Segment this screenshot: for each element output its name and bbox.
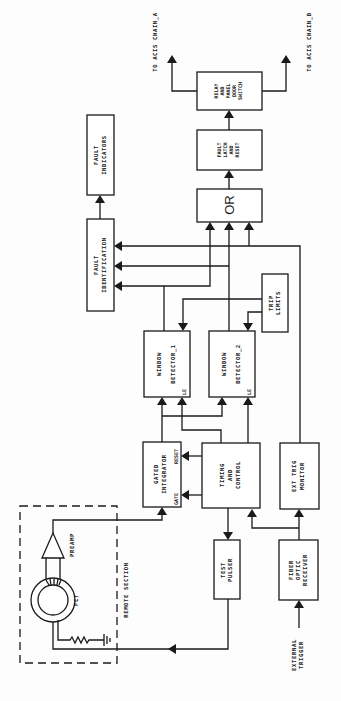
remote-section-label: REMOTE SECTION <box>123 562 129 618</box>
block-fault-indicators: FAULT INDICATORS <box>87 115 114 195</box>
block-diagram: FAULT INDICATORS FAULT IDENTIFICATION OR… <box>0 0 341 701</box>
port-reset: RESET <box>173 449 179 464</box>
svg-text:RECEIVER: RECEIVER <box>302 554 308 586</box>
block-fault-identification: FAULT IDENTIFICATION <box>87 219 114 311</box>
block-gated-integrator: GATED INTEGRATOR GATE RESET <box>143 442 181 507</box>
remote-section: REMOTE SECTION PREAMP FCT <box>20 506 129 663</box>
fct-label: FCT <box>73 594 79 606</box>
svg-text:DETECTOR_1: DETECTOR_1 <box>170 344 177 384</box>
port-le: LE <box>181 389 187 395</box>
label: OR <box>222 195 237 215</box>
svg-text:LIMITS: LIMITS <box>275 291 281 315</box>
preamp-icon <box>42 533 64 558</box>
svg-text:TRIP: TRIP <box>268 295 274 311</box>
svg-text:TEST: TEST <box>220 562 226 578</box>
svg-text:TRIGGER: TRIGGER <box>298 641 304 669</box>
ground-icon <box>104 634 110 646</box>
svg-text:INTEGRATOR: INTEGRATOR <box>161 454 167 494</box>
svg-text:PULSER: PULSER <box>227 558 233 582</box>
preamp-label: PREAMP <box>69 533 75 557</box>
svg-text:EXT TRIG: EXT TRIG <box>291 460 297 492</box>
block-trip-limits: TRIP LIMITS <box>262 274 288 332</box>
block-test-pulser: TEST PULSER <box>214 540 240 599</box>
block-or-gate: OR <box>197 189 262 222</box>
port-le: LE <box>246 389 252 395</box>
block-window-detector-2: WINDOW DETECTOR_2 LE <box>209 331 255 397</box>
port-gate: GATE <box>173 493 179 505</box>
block-timing-control: TIMING AND CONTROL <box>202 443 260 508</box>
label: INDICATORS <box>101 135 107 175</box>
svg-text:SWITCH: SWITCH <box>237 82 243 100</box>
label: FAULT <box>93 145 99 165</box>
svg-text:GATED: GATED <box>153 464 159 484</box>
svg-text:CONTROL: CONTROL <box>235 461 241 489</box>
svg-text:DETECTOR_2: DETECTOR_2 <box>235 344 242 384</box>
svg-text:AND: AND <box>227 469 233 481</box>
block-window-detector-1: WINDOW DETECTOR_1 LE <box>144 331 190 397</box>
svg-text:WINDOW: WINDOW <box>156 352 162 376</box>
label: FAULT <box>93 255 99 275</box>
block-ext-trig-monitor: EXT TRIG MONITOR <box>280 443 319 509</box>
block-relay: RELAY AND PANEL DOOR SWITCH <box>197 72 262 110</box>
block-fiber-optic-receiver: FIBER OPTIC RECEIVER <box>279 540 318 600</box>
svg-text:EXTERNAL: EXTERNAL <box>291 639 297 671</box>
block-fault-latch: FAULT LATCH AND RESET <box>197 130 262 170</box>
output-chain-a: TO ACIS CHAIN_A <box>152 12 159 72</box>
svg-text:MONITOR: MONITOR <box>299 462 305 490</box>
svg-text:WINDOW: WINDOW <box>221 352 227 376</box>
svg-text:RESET: RESET <box>234 142 240 157</box>
svg-text:OPTIC: OPTIC <box>295 560 301 580</box>
svg-text:FIBER: FIBER <box>288 560 294 580</box>
svg-text:TIMING: TIMING <box>219 463 225 487</box>
output-chain-b: TO ACIS CHAIN_B <box>306 12 313 72</box>
label: IDENTIFICATION <box>101 237 107 293</box>
input-external-trigger: EXTERNAL TRIGGER <box>291 639 304 671</box>
